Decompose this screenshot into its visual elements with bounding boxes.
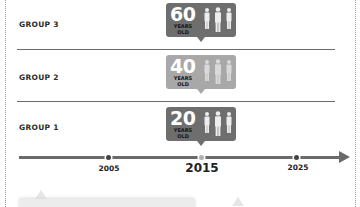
callout-pointer (197, 141, 205, 146)
timeline-dot-2005 (106, 155, 111, 160)
group-1-age-callout: 20 YEARS OLD (166, 107, 236, 141)
timeline-arrow-icon (339, 151, 350, 163)
group-1-age-number: 20 (170, 107, 195, 129)
group-3-age-number: 60 (170, 3, 195, 25)
group-2-age-number: 40 (170, 55, 195, 77)
group-1-label: GROUP 1 (19, 123, 59, 132)
timeline-label-2015: 2015 (180, 161, 224, 175)
callout-pointer (197, 37, 205, 42)
row-separator (17, 101, 335, 102)
timeline-dot-2025 (294, 155, 299, 160)
group-1-age-caption: YEARS OLD (169, 128, 197, 139)
group-3-age-caption: YEARS OLD (169, 24, 197, 35)
group-2-age-caption: YEARS OLD (169, 76, 197, 87)
group-3-age-callout: 60 YEARS OLD (166, 3, 236, 37)
group-2-label: GROUP 2 (19, 73, 59, 82)
right-dotted-border (355, 0, 356, 207)
three-people-icon (202, 7, 234, 33)
timeline-dot-2015 (199, 155, 204, 160)
callout-pointer (197, 89, 205, 94)
three-people-icon (202, 111, 234, 137)
group-2-age-callout: 40 YEARS OLD (166, 55, 236, 89)
timeline-label-2005: 2005 (90, 164, 128, 173)
timeline-axis (19, 156, 341, 159)
timeline-label-2025: 2025 (279, 163, 317, 172)
left-dotted-border (5, 0, 6, 207)
row-separator (17, 49, 335, 50)
three-people-icon (202, 59, 234, 85)
bottom-panel (19, 199, 195, 207)
bottom-panel-pointer-2 (232, 197, 244, 206)
bottom-panel-pointer (35, 190, 47, 199)
group-3-label: GROUP 3 (19, 20, 59, 29)
